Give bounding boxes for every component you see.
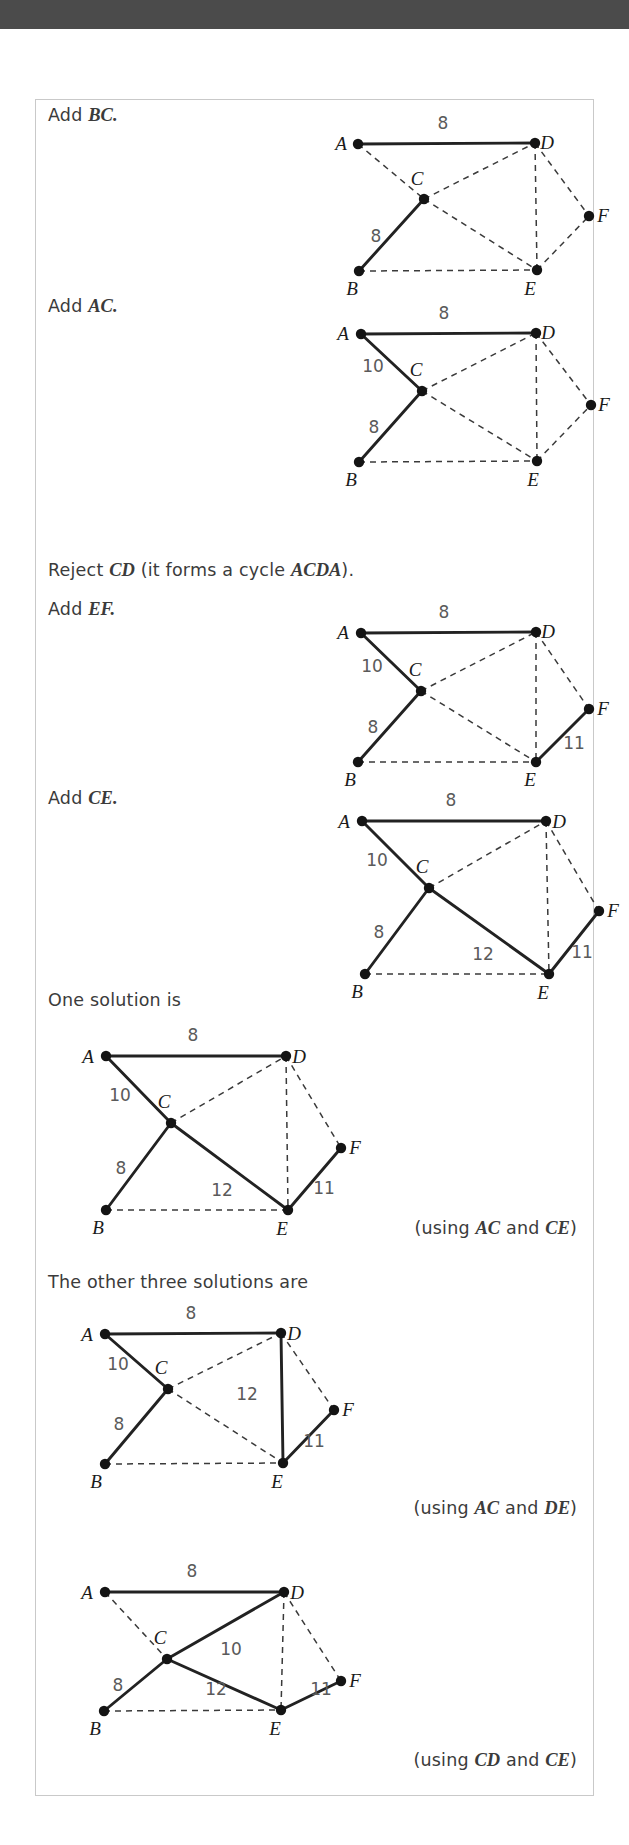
note-edge-2: CE [545, 1218, 570, 1238]
weight-label-ef: 11 [303, 1431, 325, 1451]
caption-cycle-label: ACDA [291, 560, 341, 580]
vertex-node-b [354, 266, 364, 276]
vertex-node-c [417, 386, 427, 396]
vertex-node-a [353, 139, 363, 149]
caption-text: Add [48, 296, 88, 316]
solid-edge-de [281, 1333, 283, 1463]
dashed-edge-ce [424, 199, 537, 270]
vertex-node-a [356, 329, 366, 339]
note-2: (using AC and DE) [413, 1498, 577, 1519]
vertex-node-e [283, 1205, 293, 1215]
vertex-label-f: F [597, 394, 610, 415]
vertex-label-a: A [336, 811, 350, 832]
dashed-edge-be [105, 1463, 283, 1464]
note-text: ) [570, 1750, 577, 1770]
caption-text: Reject [48, 560, 109, 580]
note-text: and [500, 1750, 545, 1770]
weight-label-bc: 8 [114, 1414, 125, 1434]
vertex-node-b [100, 1459, 110, 1469]
dashed-edge-df [546, 821, 599, 911]
graph-3: 810811ABCDEF [286, 599, 596, 759]
weight-label-bc: 8 [374, 922, 385, 942]
vertex-label-f: F [596, 698, 609, 719]
vertex-node-a [101, 1051, 111, 1061]
vertex-label-b: B [344, 769, 356, 790]
caption-edge-label: CD [109, 560, 135, 580]
note-edge-2: CE [545, 1750, 570, 1770]
caption-6: One solution is [48, 990, 181, 1010]
note-text: ) [570, 1498, 577, 1518]
vertex-label-f: F [606, 900, 619, 921]
dashed-edge-ef [537, 405, 591, 461]
note-text: ) [570, 1218, 577, 1238]
weight-label-ef: 11 [310, 1679, 332, 1699]
dashed-edge-cd [429, 821, 546, 888]
vertex-node-f [594, 906, 604, 916]
vertex-node-f [584, 211, 594, 221]
dashed-edge-be [359, 270, 537, 271]
vertex-label-d: D [286, 1323, 301, 1344]
vertex-node-a [100, 1329, 110, 1339]
vertex-node-d [541, 816, 551, 826]
caption-edge-label: EF. [88, 599, 115, 619]
vertex-label-c: C [154, 1627, 167, 1648]
caption-3: Reject CD (it forms a cycle ACDA). [48, 560, 354, 581]
caption-text: The other three solutions are [48, 1272, 308, 1292]
vertex-node-e [278, 1458, 288, 1468]
solid-edge-bc [359, 199, 424, 271]
vertex-label-b: B [345, 469, 357, 490]
graph-7: 10881211ABCDEF [36, 1558, 346, 1723]
vertex-label-e: E [526, 469, 539, 490]
vertex-node-d [279, 1587, 289, 1597]
note-text: and [500, 1218, 545, 1238]
vertex-node-f [336, 1676, 346, 1686]
vertex-label-c: C [411, 168, 424, 189]
note-edge-1: AC [475, 1498, 500, 1518]
note-text: (using [414, 1218, 475, 1238]
note-text: and [499, 1498, 544, 1518]
graph-2: 8108ABCDEF [286, 296, 596, 456]
vertex-label-a: A [335, 323, 349, 344]
dashed-edge-de [286, 1056, 288, 1210]
vertex-label-c: C [409, 659, 422, 680]
graph-5: 81081211ABCDEF [36, 1022, 346, 1187]
caption-4: Add EF. [48, 599, 115, 620]
vertex-node-d [530, 138, 540, 148]
weight-label-ac: 10 [361, 656, 383, 676]
weight-label-ad: 8 [438, 113, 449, 133]
weight-label-ad: 8 [439, 303, 450, 323]
solid-edge-ad [105, 1333, 281, 1334]
solid-edge-ad [358, 143, 535, 144]
vertex-label-b: B [89, 1718, 101, 1739]
note-edge-1: AC [476, 1218, 501, 1238]
vertex-label-e: E [270, 1471, 283, 1492]
solid-edge-ad [361, 333, 536, 334]
weight-label-bc: 8 [369, 417, 380, 437]
vertex-label-d: D [540, 322, 555, 343]
caption-text: Add [48, 599, 88, 619]
vertex-label-a: A [333, 133, 347, 154]
graph-1: 88ABCDEF [286, 105, 596, 265]
dashed-edge-de [546, 821, 549, 974]
dashed-edge-df [536, 632, 589, 709]
vertex-label-a: A [335, 622, 349, 643]
vertex-node-c [166, 1118, 176, 1128]
weight-label-ac: 10 [362, 356, 384, 376]
dashed-edge-cd [421, 632, 536, 691]
vertex-label-c: C [158, 1091, 171, 1112]
vertex-node-d [276, 1328, 286, 1338]
vertex-node-f [584, 704, 594, 714]
vertex-node-b [354, 457, 364, 467]
vertex-node-c [419, 194, 429, 204]
dashed-edge-ac [105, 1592, 167, 1659]
vertex-label-f: F [348, 1670, 361, 1691]
dashed-edge-ce [422, 391, 537, 461]
caption-1: Add BC. [48, 105, 118, 126]
vertex-label-e: E [523, 769, 536, 790]
weight-label-ef: 11 [563, 733, 585, 753]
vertex-node-c [424, 883, 434, 893]
dashed-edge-df [284, 1592, 341, 1681]
vertex-node-d [531, 328, 541, 338]
vertex-label-a: A [80, 1046, 94, 1067]
caption-text: One solution is [48, 990, 181, 1010]
